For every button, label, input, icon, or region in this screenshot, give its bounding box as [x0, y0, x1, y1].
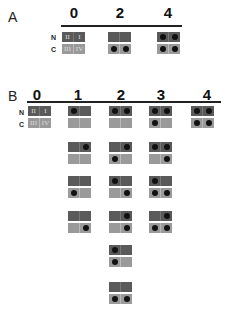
- box-cell: [109, 142, 120, 152]
- box-cell: [68, 154, 79, 164]
- dot-icon: [152, 225, 158, 231]
- dot-icon: [124, 296, 130, 302]
- box-cell: [160, 223, 172, 233]
- nc-unit: IIIIIIIV: [62, 32, 85, 54]
- c-box: [108, 44, 131, 54]
- box-cell: [120, 223, 132, 233]
- dot-icon: [164, 225, 170, 231]
- dot-icon: [112, 178, 118, 184]
- dot-icon: [124, 225, 130, 231]
- box-cell: [160, 211, 172, 221]
- dot-icon: [71, 108, 77, 114]
- box-cell: [109, 282, 120, 292]
- dot-icon: [83, 225, 89, 231]
- panel-a-col-0: 0: [70, 4, 78, 21]
- panel-b-row-c: C: [19, 121, 24, 128]
- dot-icon: [164, 190, 170, 196]
- box-cell: [120, 118, 132, 128]
- box-cell: [149, 154, 160, 164]
- c-box: IIIIV: [62, 44, 85, 54]
- n-box: [68, 142, 91, 152]
- box-cell: [149, 211, 160, 221]
- box-cell: [79, 223, 91, 233]
- box-cell: [168, 32, 180, 42]
- c-box: [149, 223, 172, 233]
- box-cell: [149, 142, 160, 152]
- nc-unit: [109, 142, 132, 164]
- box-cell: [149, 106, 160, 116]
- box-cell: [119, 32, 131, 42]
- dot-icon: [152, 190, 158, 196]
- nc-unit: IIIIIIIV: [28, 106, 51, 128]
- n-box: [68, 176, 91, 186]
- c-box: [191, 118, 214, 128]
- dot-icon: [124, 144, 130, 150]
- c-box: [149, 188, 172, 198]
- dot-icon: [112, 296, 118, 302]
- box-cell: [160, 118, 172, 128]
- box-cell: [120, 294, 132, 304]
- dot-icon: [164, 144, 170, 150]
- dot-icon: [112, 247, 118, 253]
- nc-unit: [108, 32, 131, 54]
- n-box: [149, 142, 172, 152]
- n-box: [68, 106, 91, 116]
- box-cell: [120, 245, 132, 255]
- box-cell: [149, 188, 160, 198]
- box-cell: I: [73, 32, 85, 42]
- box-cell: [191, 118, 202, 128]
- box-cell: [79, 142, 91, 152]
- dot-icon: [124, 190, 130, 196]
- box-cell: [109, 211, 120, 221]
- dot-icon: [152, 108, 158, 114]
- box-cell: III: [28, 118, 39, 128]
- box-cell: [109, 154, 120, 164]
- box-cell: [120, 176, 132, 186]
- box-cell: [79, 188, 91, 198]
- n-box: [109, 211, 132, 221]
- box-cell: [68, 118, 79, 128]
- panel-b-row-n: N: [19, 109, 24, 116]
- n-box: [149, 106, 172, 116]
- n-box: [108, 32, 131, 42]
- dot-icon: [194, 120, 200, 126]
- dot-icon: [160, 34, 166, 40]
- nc-unit: [68, 176, 91, 198]
- dot-icon: [164, 108, 170, 114]
- nc-unit: [149, 142, 172, 164]
- dot-icon: [164, 156, 170, 162]
- nc-unit: [109, 245, 132, 267]
- panel-a-row-c: C: [51, 46, 56, 53]
- box-cell: [120, 257, 132, 267]
- box-cell: [68, 211, 79, 221]
- dot-icon: [152, 120, 158, 126]
- nc-unit: [68, 142, 91, 164]
- box-cell: [119, 44, 131, 54]
- box-cell: [108, 32, 119, 42]
- nc-unit: [109, 176, 132, 198]
- n-box: [109, 282, 132, 292]
- nc-unit: [149, 106, 172, 128]
- dot-icon: [172, 34, 178, 40]
- dot-icon: [123, 46, 129, 52]
- box-cell: [120, 106, 132, 116]
- nc-unit: [157, 32, 180, 54]
- c-box: [157, 44, 180, 54]
- box-cell: I: [39, 106, 51, 116]
- box-cell: [160, 154, 172, 164]
- n-box: [109, 106, 132, 116]
- c-box: [68, 188, 91, 198]
- panel-a-col-4: 4: [164, 4, 172, 21]
- box-cell: [120, 188, 132, 198]
- panel-a-row-n: N: [51, 34, 56, 41]
- n-box: III: [28, 106, 51, 116]
- dot-icon: [206, 108, 212, 114]
- n-box: [109, 245, 132, 255]
- box-cell: IV: [39, 118, 51, 128]
- nc-unit: [109, 106, 132, 128]
- n-box: [68, 211, 91, 221]
- box-cell: [109, 118, 120, 128]
- nc-unit: [149, 176, 172, 198]
- box-cell: [149, 118, 160, 128]
- box-cell: II: [62, 32, 73, 42]
